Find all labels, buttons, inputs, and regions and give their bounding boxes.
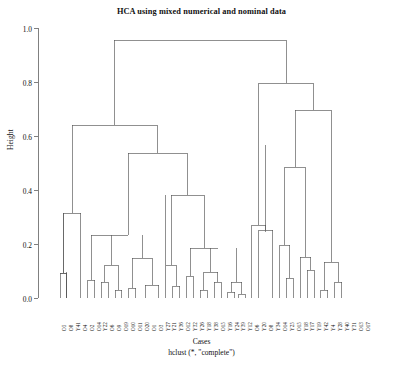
link-leaf-r8 [335,282,342,298]
leaf-label: O13 [359,322,364,331]
leaf-label: Y20 [262,322,267,331]
leaf-label: Y28 [338,322,343,331]
leaf-label: O2 [90,325,95,331]
leaf-label: O1 [152,325,157,331]
leaf-label: Y34 [276,322,281,331]
leaf-label: Y41 [76,322,81,331]
link-leaf-o5-o8 [60,273,67,298]
link-leaf-b7 [152,285,159,298]
link-leaf-c4 [200,290,207,298]
link-leaf-b3 [115,265,118,298]
leaf-label: Y4 [331,325,336,331]
link-leaf-r4 [286,278,293,298]
link-leaf-c8 [242,294,245,298]
leaf-label: O14 [97,322,102,331]
link-leaf-b6 [145,285,152,298]
leaf-label: Y12 [248,322,253,331]
x-axis-label: Cases [0,337,403,346]
leaf-label: O8 [69,325,74,331]
leaf-label: Y19 [317,322,322,331]
link-leaf-r6 [307,270,314,298]
leaf-label: Y17 [310,322,315,331]
link-leaf-c3 [187,276,194,298]
leaf-label: O5 [62,325,67,331]
leaf-label: O15 [297,322,302,331]
link-leaf-b2 [101,282,108,298]
leaf-label: O6 [110,325,115,331]
leaf-label: Y38 [214,322,219,331]
leaf-label: O12 [186,322,191,331]
link-leaf-c5 [214,282,221,298]
axis-group [34,28,38,298]
dendrogram-links [60,40,342,298]
leaf-label: Y36 [179,322,184,331]
leaf-label: O8 [269,325,274,331]
link-leaf-b4 [118,290,122,298]
leaf-label: O17 [366,322,371,331]
leaf-label: Y39 [241,322,246,331]
leaf-label: Y31 [352,322,357,331]
chart-subtitle: hclust (*, "complete") [0,348,403,357]
leaf-label: Y40 [345,322,350,331]
leaf-label: O14 [283,322,288,331]
dendrogram-plot: HCA using mixed numerical and nominal da… [0,0,403,370]
leaf-label: Y42 [324,322,329,331]
leaf-label: Y25 [290,322,295,331]
leaf-label: O9 [117,325,122,331]
leaf-label: O20 [145,322,150,331]
leaf-label: O19 [124,322,129,331]
leaf-label: Y26 [200,322,205,331]
link-leaf-c6 [228,292,235,298]
leaf-label: O10 [131,322,136,331]
link-leaf-b1 [88,280,95,298]
leaf-label: Y22 [103,322,108,331]
dendrogram-canvas [0,0,403,370]
leaf-label: Y24 [235,322,240,331]
leaf-label: Y16 [228,322,233,331]
leaf-label: O11 [138,322,143,331]
leaf-label: Y21 [172,322,177,331]
leaf-label: Y18 [304,322,309,331]
leaf-label: O3 [159,325,164,331]
link-leaf-c7 [239,282,242,298]
leaf-label: O15 [221,322,226,331]
link-leaf-b5 [129,288,136,298]
leaf-label: Y27 [166,322,171,331]
leaf-label: O6 [255,325,260,331]
link-leaf-r7 [321,290,328,298]
leaf-label: Y18 [207,322,212,331]
leaf-label: O4 [83,325,88,331]
link-leaf-c2 [173,286,180,298]
leaf-label: Y32 [193,322,198,331]
